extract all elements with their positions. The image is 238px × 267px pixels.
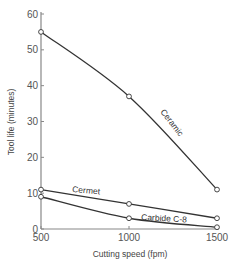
x-tick-label: 500	[33, 232, 50, 243]
data-point-marker	[39, 30, 44, 35]
y-tick-label: 30	[27, 116, 39, 127]
series-line	[41, 32, 217, 190]
tool-life-chart: 010203040506050010001500 Cutting speed (…	[0, 0, 238, 267]
series-label-ceramic: Ceramic	[158, 107, 186, 139]
y-tick-label: 20	[27, 152, 39, 163]
x-tick-label: 1000	[118, 232, 141, 243]
series-label-carbide: Carbide C-8	[141, 212, 188, 224]
y-tick-label: 60	[27, 9, 39, 20]
data-point-marker	[127, 94, 132, 99]
y-tick-label: 50	[27, 44, 39, 55]
data-point-marker	[215, 216, 220, 221]
data-point-marker	[39, 194, 44, 199]
y-axis-label: Tool life (minutes)	[6, 89, 16, 156]
data-point-marker	[127, 216, 132, 221]
y-tick-label: 10	[27, 188, 39, 199]
data-point-marker	[39, 187, 44, 192]
axes	[41, 12, 219, 229]
y-tick-label: 40	[27, 80, 39, 91]
series-label-cermet: Cermet	[72, 184, 101, 196]
x-tick-label: 1500	[206, 232, 229, 243]
data-point-marker	[215, 225, 220, 230]
x-axis-label: Cutting speed (fpm)	[93, 249, 168, 259]
data-markers	[39, 30, 220, 230]
data-point-marker	[215, 187, 220, 192]
data-point-marker	[127, 202, 132, 207]
series-lines	[41, 32, 217, 227]
